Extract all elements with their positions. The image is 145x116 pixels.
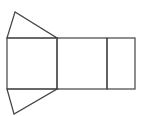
right-rectangle [107, 38, 135, 89]
left-square [7, 38, 57, 89]
net-diagram [0, 0, 145, 116]
middle-rectangle [57, 38, 107, 89]
bottom-triangle [7, 89, 57, 114]
top-triangle [7, 12, 57, 38]
